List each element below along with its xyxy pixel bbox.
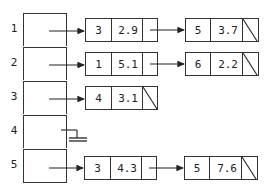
pointer-arrows	[0, 0, 269, 190]
